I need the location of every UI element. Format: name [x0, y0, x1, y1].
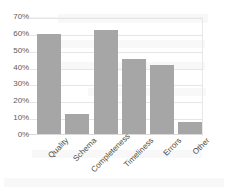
bar-errors: [150, 65, 174, 134]
x-axis-labels: Quality Schema Completeness Timeliness E…: [29, 136, 202, 192]
bar-other: [178, 122, 202, 134]
y-tick-label: 30%: [1, 80, 29, 88]
bar-chart: 70% 60% 50% 40% 30% 20% 10% 0% Quality S…: [0, 0, 231, 192]
y-tick-label: 20%: [1, 97, 29, 105]
bar-completeness: [94, 30, 118, 134]
bar-timeliness: [122, 59, 146, 134]
y-tick-label: 50%: [1, 47, 29, 55]
y-tick-label: 10%: [1, 114, 29, 122]
bar-quality: [37, 34, 61, 134]
x-axis-line: [29, 134, 202, 135]
y-tick-label: 70%: [1, 13, 29, 21]
bar-series: [29, 17, 202, 134]
y-axis: 70% 60% 50% 40% 30% 20% 10% 0%: [0, 17, 29, 135]
bar-schema: [65, 114, 89, 134]
y-tick-label: 60%: [1, 30, 29, 38]
y-tick-label: 40%: [1, 64, 29, 72]
y-tick-label: 0%: [1, 131, 29, 139]
